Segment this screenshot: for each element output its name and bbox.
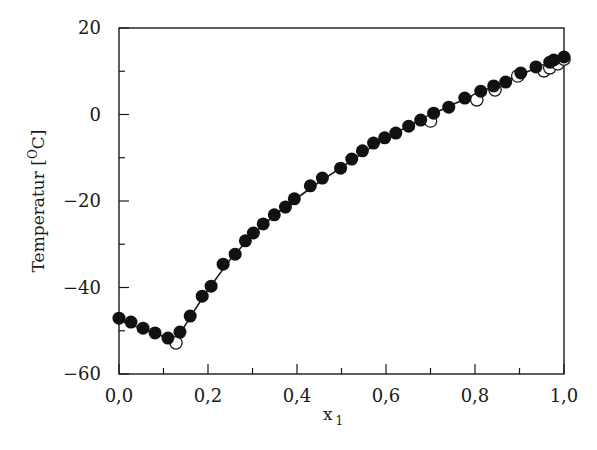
filled-data-point	[458, 92, 471, 105]
x-tick-label: 0,4	[283, 385, 312, 406]
filled-data-point	[161, 332, 174, 345]
chart: 0,00,20,40,60,81,0 200−20−40−60 x1 Tempe…	[0, 0, 597, 450]
x-tick-label: 0,2	[194, 385, 223, 406]
filled-data-point	[316, 172, 329, 185]
filled-data-point	[288, 192, 301, 205]
filled-circle-series	[113, 50, 571, 344]
fit-curve	[119, 58, 564, 339]
filled-data-point	[205, 280, 218, 293]
filled-data-point	[217, 258, 230, 271]
filled-data-point	[304, 179, 317, 192]
filled-data-point	[402, 120, 415, 133]
x-tick-label: 0,6	[372, 385, 401, 406]
x-tick-label: 0,0	[105, 385, 134, 406]
filled-data-point	[427, 107, 440, 120]
y-tick-label: −60	[63, 363, 101, 384]
filled-data-point	[389, 127, 402, 140]
filled-data-point	[247, 227, 260, 240]
filled-data-point	[229, 248, 242, 261]
filled-data-point	[334, 162, 347, 175]
filled-data-point	[125, 316, 138, 329]
filled-data-point	[442, 101, 455, 114]
filled-data-point	[529, 60, 542, 73]
filled-data-point	[268, 208, 281, 221]
filled-data-point	[558, 50, 571, 63]
filled-data-point	[196, 290, 209, 303]
filled-data-point	[499, 76, 512, 89]
plot-frame	[119, 28, 564, 374]
filled-data-point	[356, 144, 369, 157]
filled-data-point	[173, 326, 186, 339]
y-axis-label: Temperatur [OC]	[26, 130, 48, 273]
open-circle-series	[170, 53, 570, 349]
filled-data-point	[113, 312, 126, 325]
y-tick-label: 0	[90, 104, 101, 125]
y-tick-label: −40	[63, 277, 101, 298]
filled-data-point	[137, 322, 150, 335]
filled-data-point	[474, 85, 487, 98]
filled-data-point	[378, 131, 391, 144]
filled-data-point	[487, 79, 500, 92]
y-tick-label: −20	[63, 190, 101, 211]
y-tick-label: 20	[78, 17, 101, 38]
filled-data-point	[149, 326, 162, 339]
filled-data-point	[514, 66, 527, 79]
filled-data-point	[367, 137, 380, 150]
filled-data-point	[345, 153, 358, 166]
x-tick-label: 1,0	[550, 385, 579, 406]
filled-data-point	[257, 217, 270, 230]
x-axis-ticks: 0,00,20,40,60,81,0	[105, 364, 579, 406]
filled-data-point	[184, 310, 197, 323]
filled-data-point	[414, 114, 427, 127]
x-axis-label: x1	[323, 404, 343, 428]
x-tick-label: 0,8	[461, 385, 490, 406]
